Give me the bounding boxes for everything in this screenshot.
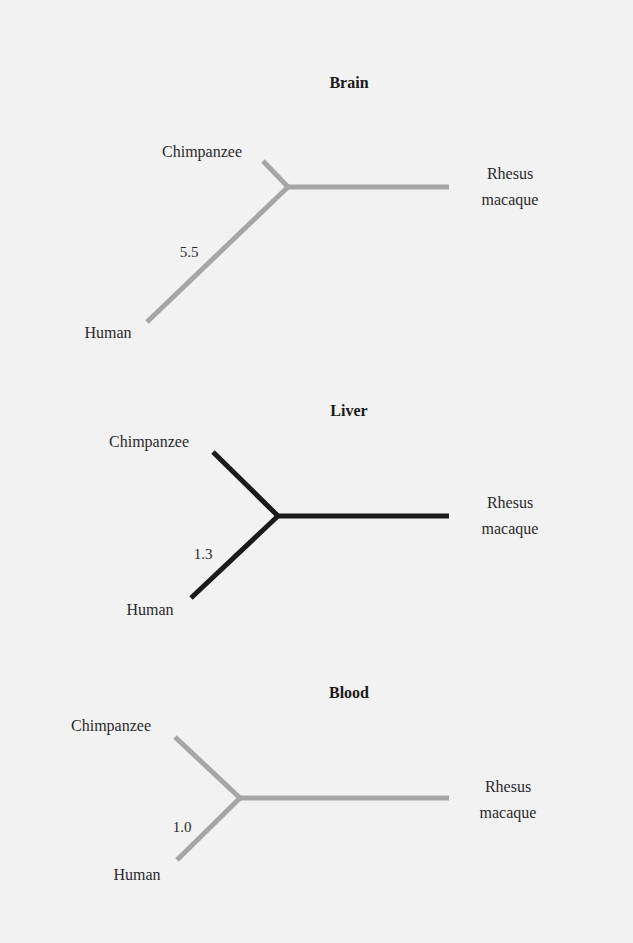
leaf-rhesus-line1-liver: Rhesus <box>487 494 533 511</box>
tree-liver: Liver Chimpanzee Human Rhesus macaque 1.… <box>109 402 538 618</box>
leaf-rhesus-line2-blood: macaque <box>480 804 537 822</box>
leaf-human-brain: Human <box>84 324 131 341</box>
leaf-rhesus-line1-blood: Rhesus <box>485 778 531 795</box>
leaf-chimpanzee-blood: Chimpanzee <box>71 717 151 735</box>
distance-label-blood: 1.0 <box>173 819 192 835</box>
phylogenetic-trees-figure: Brain Chimpanzee Human Rhesus macaque 5.… <box>0 0 633 943</box>
branch-human-brain <box>147 187 288 322</box>
tree-title-liver: Liver <box>330 402 367 419</box>
leaf-chimpanzee-brain: Chimpanzee <box>162 143 242 161</box>
tree-brain: Brain Chimpanzee Human Rhesus macaque 5.… <box>84 74 538 341</box>
tree-title-blood: Blood <box>329 684 369 701</box>
leaf-chimpanzee-liver: Chimpanzee <box>109 433 189 451</box>
branch-chimp-blood <box>175 737 240 798</box>
branch-chimp-liver <box>213 452 278 516</box>
leaf-rhesus-line2-brain: macaque <box>482 191 539 209</box>
tree-title-brain: Brain <box>329 74 368 91</box>
branch-chimp-brain <box>263 161 288 187</box>
leaf-human-liver: Human <box>126 601 173 618</box>
leaf-rhesus-line2-liver: macaque <box>482 520 539 538</box>
leaf-human-blood: Human <box>113 866 160 883</box>
leaf-rhesus-line1-brain: Rhesus <box>487 165 533 182</box>
tree-blood: Blood Chimpanzee Human Rhesus macaque 1.… <box>71 684 536 883</box>
distance-label-liver: 1.3 <box>194 546 213 562</box>
distance-label-brain: 5.5 <box>180 244 199 260</box>
